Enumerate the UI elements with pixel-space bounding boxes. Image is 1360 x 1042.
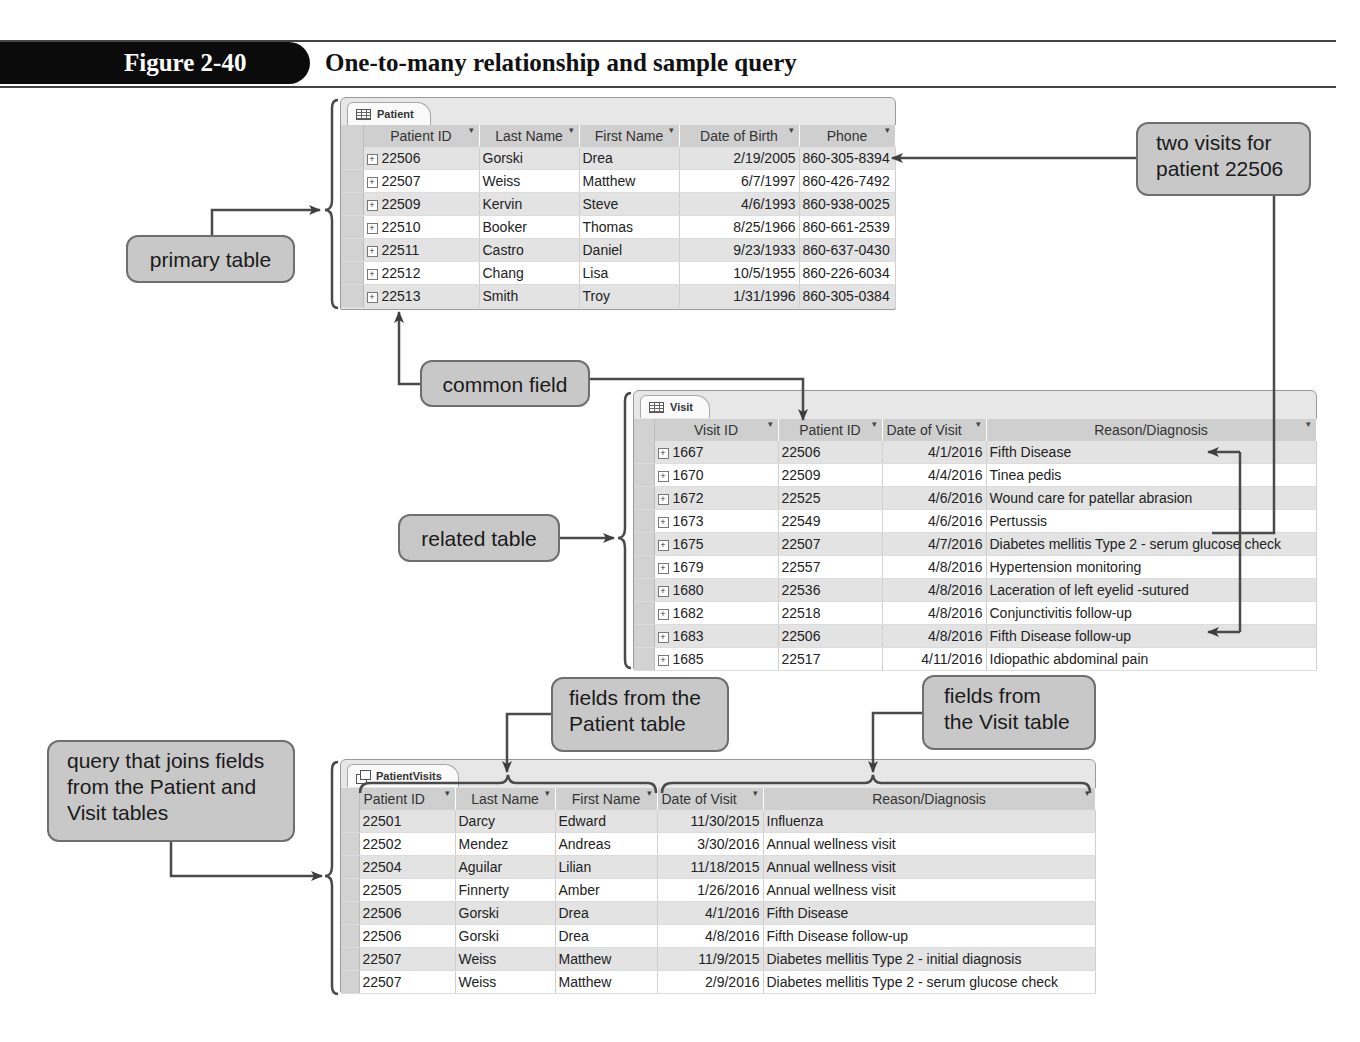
table-cell[interactable]: 860-637-0430 — [799, 239, 895, 262]
table-row[interactable]: +1672225254/6/2016Wound care for patella… — [634, 487, 1316, 510]
table-cell[interactable]: +22509 — [363, 193, 479, 216]
table-row[interactable]: 22504AguilarLilian11/18/2015Annual welln… — [341, 856, 1095, 879]
table-cell[interactable]: Weiss — [479, 170, 579, 193]
table-cell[interactable]: 22501 — [359, 810, 455, 833]
table-cell[interactable]: 6/7/1997 — [679, 170, 799, 193]
table-cell[interactable]: Finnerty — [455, 879, 555, 902]
table-row[interactable]: +22511CastroDaniel9/23/1933860-637-0430 — [341, 239, 895, 262]
column-header[interactable]: Date of Visit▾ — [657, 788, 763, 810]
table-cell[interactable]: 4/1/2016 — [657, 902, 763, 925]
table-cell[interactable]: Fifth Disease — [986, 441, 1316, 464]
table-cell[interactable]: +1672 — [654, 487, 778, 510]
table-cell[interactable]: +1667 — [654, 441, 778, 464]
expand-icon[interactable]: + — [367, 154, 378, 165]
dropdown-arrow-icon[interactable]: ▾ — [789, 125, 794, 135]
table-cell[interactable]: 22517 — [778, 648, 882, 671]
table-cell[interactable]: Drea — [555, 925, 657, 948]
record-selector[interactable] — [341, 971, 359, 994]
table-row[interactable]: 22502MendezAndreas3/30/2016Annual wellne… — [341, 833, 1095, 856]
column-header[interactable]: Patient ID▾ — [359, 788, 455, 810]
record-selector[interactable] — [341, 262, 363, 285]
record-selector[interactable] — [634, 556, 654, 579]
table-cell[interactable]: Daniel — [579, 239, 679, 262]
table-cell[interactable]: Gorski — [455, 925, 555, 948]
table-cell[interactable]: 860-938-0025 — [799, 193, 895, 216]
table-cell[interactable]: Laceration of left eyelid -sutured — [986, 579, 1316, 602]
table-cell[interactable]: 860-661-2539 — [799, 216, 895, 239]
table-cell[interactable]: 1/26/2016 — [657, 879, 763, 902]
table-cell[interactable]: Chang — [479, 262, 579, 285]
table-cell[interactable]: Matthew — [555, 948, 657, 971]
table-cell[interactable]: 860-226-6034 — [799, 262, 895, 285]
expand-icon[interactable]: + — [658, 494, 669, 505]
table-cell[interactable]: Gorski — [479, 147, 579, 170]
table-cell[interactable]: 4/8/2016 — [657, 925, 763, 948]
dropdown-arrow-icon[interactable]: ▾ — [469, 125, 474, 135]
record-selector[interactable] — [341, 147, 363, 170]
table-row[interactable]: 22505FinnertyAmber1/26/2016Annual wellne… — [341, 879, 1095, 902]
expand-icon[interactable]: + — [658, 655, 669, 666]
table-cell[interactable]: 22502 — [359, 833, 455, 856]
table-row[interactable]: +1682225184/8/2016Conjunctivitis follow-… — [634, 602, 1316, 625]
table-cell[interactable]: +1675 — [654, 533, 778, 556]
dropdown-arrow-icon[interactable]: ▾ — [1306, 419, 1311, 429]
table-cell[interactable]: 4/8/2016 — [882, 579, 986, 602]
table-cell[interactable]: 860-426-7492 — [799, 170, 895, 193]
table-cell[interactable]: 11/9/2015 — [657, 948, 763, 971]
table-cell[interactable]: 22557 — [778, 556, 882, 579]
table-cell[interactable]: 2/19/2005 — [679, 147, 799, 170]
table-cell[interactable]: +22511 — [363, 239, 479, 262]
dropdown-arrow-icon[interactable]: ▾ — [669, 125, 674, 135]
table-row[interactable]: 22507WeissMatthew11/9/2015Diabetes melli… — [341, 948, 1095, 971]
dropdown-arrow-icon[interactable]: ▾ — [1085, 788, 1090, 798]
dropdown-arrow-icon[interactable]: ▾ — [885, 125, 890, 135]
table-cell[interactable]: Smith — [479, 285, 579, 308]
expand-icon[interactable]: + — [658, 563, 669, 574]
table-cell[interactable]: Conjunctivitis follow-up — [986, 602, 1316, 625]
table-cell[interactable]: Influenza — [763, 810, 1095, 833]
table-cell[interactable]: +22506 — [363, 147, 479, 170]
dropdown-arrow-icon[interactable]: ▾ — [569, 125, 574, 135]
table-cell[interactable]: +22507 — [363, 170, 479, 193]
table-cell[interactable]: Andreas — [555, 833, 657, 856]
table-row[interactable]: +22506GorskiDrea2/19/2005860-305-8394 — [341, 147, 895, 170]
table-cell[interactable]: 22504 — [359, 856, 455, 879]
record-selector[interactable] — [634, 579, 654, 602]
table-cell[interactable]: Edward — [555, 810, 657, 833]
record-selector[interactable] — [341, 216, 363, 239]
table-cell[interactable]: 2/9/2016 — [657, 971, 763, 994]
table-cell[interactable]: 22506 — [359, 902, 455, 925]
record-selector[interactable] — [341, 810, 359, 833]
table-row[interactable]: 22501DarcyEdward11/30/2015Influenza — [341, 810, 1095, 833]
table-row[interactable]: 22507WeissMatthew2/9/2016Diabetes mellit… — [341, 971, 1095, 994]
record-selector[interactable] — [634, 625, 654, 648]
table-cell[interactable]: +22510 — [363, 216, 479, 239]
table-cell[interactable]: 22536 — [778, 579, 882, 602]
table-cell[interactable]: 22506 — [359, 925, 455, 948]
expand-icon[interactable]: + — [367, 200, 378, 211]
table-row[interactable]: +22509KervinSteve4/6/1993860-938-0025 — [341, 193, 895, 216]
table-cell[interactable]: 860-305-0384 — [799, 285, 895, 308]
table-cell[interactable]: 860-305-8394 — [799, 147, 895, 170]
select-all-cell[interactable] — [634, 419, 654, 441]
table-cell[interactable]: 22525 — [778, 487, 882, 510]
table-cell[interactable]: Wound care for patellar abrasion — [986, 487, 1316, 510]
table-row[interactable]: +1683225064/8/2016Fifth Disease follow-u… — [634, 625, 1316, 648]
column-header[interactable]: Date of Visit▾ — [882, 419, 986, 441]
dropdown-arrow-icon[interactable]: ▾ — [872, 419, 877, 429]
expand-icon[interactable]: + — [367, 246, 378, 257]
table-cell[interactable]: Lisa — [579, 262, 679, 285]
table-cell[interactable]: Fifth Disease follow-up — [986, 625, 1316, 648]
record-selector[interactable] — [341, 193, 363, 216]
tab-patientvisits[interactable]: PatientVisits — [347, 764, 459, 787]
table-cell[interactable]: Troy — [579, 285, 679, 308]
expand-icon[interactable]: + — [658, 448, 669, 459]
expand-icon[interactable]: + — [367, 177, 378, 188]
record-selector[interactable] — [341, 239, 363, 262]
table-cell[interactable]: 4/8/2016 — [882, 602, 986, 625]
table-cell[interactable]: 4/6/2016 — [882, 510, 986, 533]
record-selector[interactable] — [634, 441, 654, 464]
expand-icon[interactable]: + — [658, 471, 669, 482]
table-row[interactable]: 22506GorskiDrea4/8/2016Fifth Disease fol… — [341, 925, 1095, 948]
dropdown-arrow-icon[interactable]: ▾ — [545, 788, 550, 798]
